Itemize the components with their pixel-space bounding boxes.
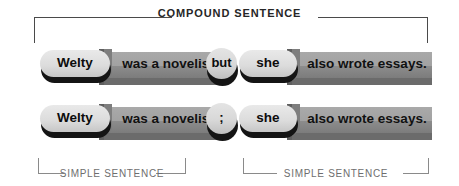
compound-sentence-label: COMPOUND SENTENCE xyxy=(0,7,459,20)
sentence-structure-diagram: COMPOUND SENTENCE Welty was a novelist b… xyxy=(0,0,459,186)
simple-sentence-bracket-left: SIMPLE SENTENCE xyxy=(38,158,186,174)
bar-bevel xyxy=(290,133,432,140)
bar-bevel xyxy=(290,78,432,85)
predicate-bar-2: also wrote essays. xyxy=(290,52,432,78)
predicate-bar-1: was a novelist xyxy=(102,52,220,78)
predicate-bar-2-label: also wrote essays. xyxy=(302,55,432,73)
sentence-row-conjunction: Welty was a novelist but she also wrote … xyxy=(0,47,459,91)
subject-pill-welty-2: Welty xyxy=(40,105,110,132)
compound-sentence-bracket xyxy=(34,17,428,43)
subject-pill-welty-label: Welty xyxy=(40,54,110,72)
conjunction-circle-but-label: but xyxy=(206,54,237,72)
predicate-bar-4: also wrote essays. xyxy=(290,107,432,133)
punctuation-circle-semicolon-label: ; xyxy=(206,109,237,127)
predicate-bar-4-label: also wrote essays. xyxy=(302,110,432,128)
simple-sentence-label-right: SIMPLE SENTENCE xyxy=(243,168,429,180)
predicate-bar-1-label: was a novelist xyxy=(116,55,220,73)
subject-pill-she-label: she xyxy=(239,54,297,72)
subject-pill-welty: Welty xyxy=(40,50,110,77)
bracket-leg-right xyxy=(427,17,428,43)
predicate-bar-3: was a novelist xyxy=(102,107,220,133)
conjunction-circle-but: but xyxy=(206,48,237,79)
subject-pill-she-2-label: she xyxy=(239,109,297,127)
bar-bevel xyxy=(102,133,220,140)
bar-bevel xyxy=(102,78,220,85)
predicate-bar-3-label: was a novelist xyxy=(116,110,220,128)
subject-pill-welty-2-label: Welty xyxy=(40,109,110,127)
punctuation-circle-semicolon: ; xyxy=(206,103,237,134)
subject-pill-she: she xyxy=(239,50,297,77)
bracket-leg-left xyxy=(34,17,35,43)
subject-pill-she-2: she xyxy=(239,105,297,132)
simple-sentence-label-left: SIMPLE SENTENCE xyxy=(38,168,186,180)
simple-sentence-bracket-right: SIMPLE SENTENCE xyxy=(243,158,429,174)
sentence-row-semicolon: Welty was a novelist ; she also wrote es… xyxy=(0,102,459,146)
